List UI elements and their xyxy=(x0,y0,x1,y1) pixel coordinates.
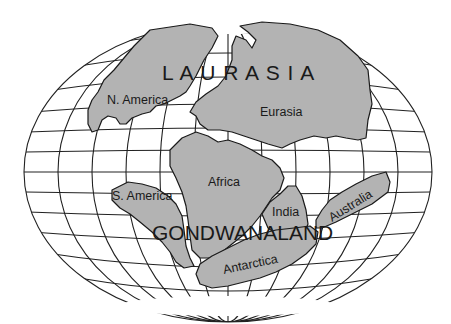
label-eurasia: Eurasia xyxy=(260,105,302,119)
label-north-america: N. America xyxy=(107,93,168,107)
south-pole-cap xyxy=(118,296,338,316)
eurasia-shape xyxy=(190,22,372,148)
label-india: India xyxy=(272,205,299,219)
label-gondwanaland: GONDWANALAND xyxy=(152,221,333,244)
map-canvas: L A U R A S I A N. America Eurasia Afric… xyxy=(0,0,451,324)
label-africa: Africa xyxy=(208,175,240,189)
pangaea-map: L A U R A S I A N. America Eurasia Afric… xyxy=(0,0,451,324)
label-laurasia: L A U R A S I A xyxy=(162,61,315,84)
label-south-america: S. America xyxy=(112,189,172,203)
